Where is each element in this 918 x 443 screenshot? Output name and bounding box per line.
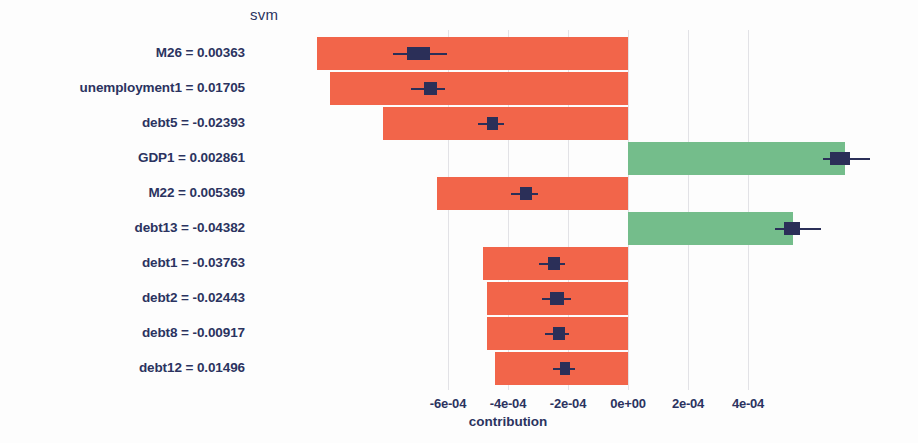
x-tick-label: -6e-04 (430, 396, 466, 411)
x-axis-label: contribution (469, 414, 548, 429)
error-bar-box (548, 257, 560, 270)
x-tick-label: 4e-04 (732, 396, 764, 411)
x-tick-label: -4e-04 (490, 396, 526, 411)
error-bar-box (560, 362, 570, 375)
row-label: debt13 = -0.04382 (135, 220, 246, 235)
gridline (688, 30, 689, 390)
row-label: debt8 = -0.00917 (142, 325, 245, 340)
chart-title: svm (250, 6, 278, 23)
error-bar-box (520, 187, 532, 200)
bar (628, 142, 845, 175)
gridline (748, 30, 749, 390)
error-bar-box (424, 82, 437, 95)
error-bar-box (550, 292, 564, 305)
row-label: debt2 = -0.02443 (142, 290, 245, 305)
row-label: debt1 = -0.03763 (142, 255, 245, 270)
svm-contribution-chart: svm M26 = 0.00363unemployment1 = 0.01705… (0, 0, 918, 443)
error-bar-box (784, 222, 800, 235)
error-bar-box (553, 327, 565, 340)
gridline (628, 30, 629, 390)
row-label: M22 = 0.005369 (148, 185, 245, 200)
error-bar-box (830, 152, 850, 165)
x-tick-label: 2e-04 (672, 396, 704, 411)
row-label: debt5 = -0.02393 (142, 115, 245, 130)
bar (330, 72, 628, 105)
x-tick-label: -2e-04 (550, 396, 586, 411)
error-bar-box (487, 117, 498, 130)
error-bar-box (407, 47, 430, 60)
row-label: debt12 = 0.01496 (139, 360, 245, 375)
x-tick-label: 0e+00 (610, 396, 646, 411)
row-label: unemployment1 = 0.01705 (80, 80, 245, 95)
bar (317, 37, 628, 70)
bar (383, 107, 628, 140)
row-label: M26 = 0.00363 (156, 45, 245, 60)
row-label: GDP1 = 0.002861 (138, 150, 245, 165)
bar (628, 212, 793, 245)
